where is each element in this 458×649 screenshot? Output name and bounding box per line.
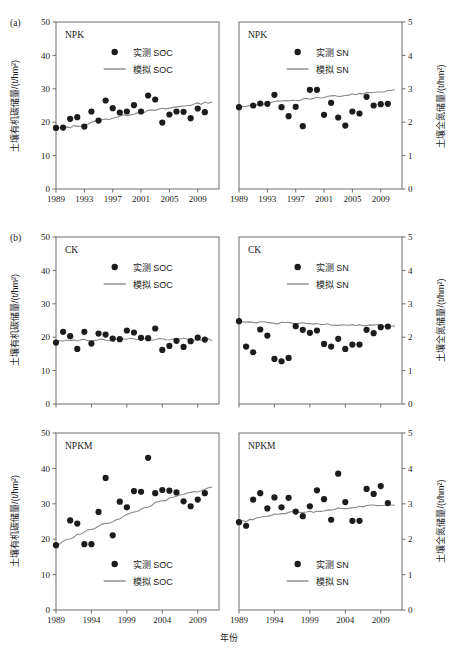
data-point — [378, 101, 384, 107]
data-point — [335, 336, 341, 342]
data-point — [271, 356, 277, 362]
legend-label-measured: 实测 SOC — [133, 559, 174, 570]
y-tick-label: 10 — [41, 366, 51, 376]
legend-label-simulated: 模拟 SN — [316, 576, 349, 587]
chart-panel-a-left: 01020304050198919931997200120052009NPK实测… — [41, 17, 219, 204]
data-point — [250, 102, 256, 108]
panel-title: CK — [248, 245, 261, 255]
data-point — [202, 336, 208, 342]
data-point — [300, 327, 306, 333]
data-point — [342, 499, 348, 505]
legend-label-simulated: 模拟 SOC — [133, 279, 174, 290]
x-tick-label: 1994 — [265, 615, 284, 625]
x-tick-label: 2004 — [153, 615, 172, 625]
x-tick-label: 1997 — [287, 194, 306, 204]
y-tick-label: 0 — [46, 399, 51, 409]
data-point — [307, 330, 313, 336]
data-point — [363, 94, 369, 100]
data-point — [371, 491, 377, 497]
chart-panel-b-bottom-right: 01234519891994199920042009NPKM实测 SN模拟 SN — [230, 428, 413, 625]
x-tick-label: 1989 — [230, 615, 249, 625]
panel-title: NPKM — [65, 441, 93, 451]
y-tick-label: 2 — [408, 332, 413, 342]
x-tick-label: 1997 — [104, 194, 123, 204]
data-point — [264, 332, 270, 338]
y-tick-label: 4 — [408, 266, 413, 276]
data-point — [293, 104, 299, 110]
data-point — [236, 104, 242, 110]
simulated-line — [239, 505, 395, 522]
legend-marker-measured — [294, 561, 300, 567]
data-point — [180, 498, 186, 504]
data-point — [74, 114, 80, 120]
data-point — [95, 330, 101, 336]
panel-title: NPK — [65, 30, 84, 40]
data-point — [103, 475, 109, 481]
chart-panel-b-bottom-left: 0102030405019891994199920042009NPKM实测 SO… — [41, 428, 219, 625]
data-point — [166, 343, 172, 349]
data-point — [257, 490, 263, 496]
legend-label-measured: 实测 SOC — [133, 262, 174, 273]
y-tick-label: 0 — [408, 399, 413, 409]
legend-marker-measured — [294, 49, 300, 55]
legend-label-measured: 实测 SN — [316, 47, 349, 58]
data-point — [202, 109, 208, 115]
panel-title: CK — [65, 245, 78, 255]
simulated-line — [239, 322, 395, 327]
data-point — [349, 108, 355, 114]
y-tick-label: 2 — [408, 534, 413, 544]
data-point — [250, 496, 256, 502]
legend-label-simulated: 模拟 SN — [316, 279, 349, 290]
data-point — [138, 489, 144, 495]
y-tick-label: 0 — [408, 605, 413, 615]
y-tick-label: 40 — [41, 464, 51, 474]
data-point — [159, 119, 165, 125]
x-tick-label: 2009 — [372, 194, 391, 204]
data-point — [88, 340, 94, 346]
data-point — [53, 125, 59, 131]
data-point — [124, 327, 130, 333]
x-tick-label: 1993 — [258, 194, 277, 204]
data-point — [159, 347, 165, 353]
data-point — [250, 349, 256, 355]
data-point — [195, 496, 201, 502]
x-tick-label: 1993 — [75, 194, 94, 204]
data-point — [145, 335, 151, 341]
data-point — [188, 338, 194, 344]
y-tick-label: 30 — [41, 84, 51, 94]
y-tick-label: 2 — [408, 117, 413, 127]
y-axis-title-left-b1: 土壤有机碳储量/(t/hm²) — [9, 274, 20, 366]
data-point — [53, 339, 59, 345]
data-point — [103, 331, 109, 337]
data-point — [81, 123, 87, 129]
data-point — [257, 326, 263, 332]
y-tick-label: 3 — [408, 499, 413, 509]
y-axis-title-right-a: 土壤全氮储量/(t/hm²) — [435, 65, 446, 148]
data-point — [88, 541, 94, 547]
y-tick-label: 3 — [408, 84, 413, 94]
chart-panel-b-top-right: 012345CK实测 SN模拟 SN — [236, 232, 413, 409]
data-point — [328, 517, 334, 523]
legend-label-simulated: 模拟 SN — [316, 64, 349, 75]
x-tick-label: 2001 — [132, 194, 150, 204]
data-point — [173, 338, 179, 344]
data-point — [314, 87, 320, 93]
data-point — [356, 518, 362, 524]
data-point — [349, 341, 355, 347]
legend: 实测 SN模拟 SN — [287, 262, 349, 290]
chart-panel-b-top-left: 01020304050CK实测 SOC模拟 SOC — [41, 232, 219, 409]
data-point — [117, 336, 123, 342]
data-point — [286, 355, 292, 361]
data-point — [195, 105, 201, 111]
legend-label-measured: 实测 SN — [316, 262, 349, 273]
y-tick-label: 50 — [41, 428, 51, 438]
data-point — [110, 532, 116, 538]
data-point — [321, 112, 327, 118]
data-point — [286, 495, 292, 501]
data-point — [243, 343, 249, 349]
data-point — [363, 327, 369, 333]
figure-container: 01020304050198919931997200120052009NPK实测… — [0, 0, 458, 649]
x-tick-label: 1994 — [82, 615, 101, 625]
x-tick-label: 2009 — [372, 615, 391, 625]
data-point — [286, 113, 292, 119]
